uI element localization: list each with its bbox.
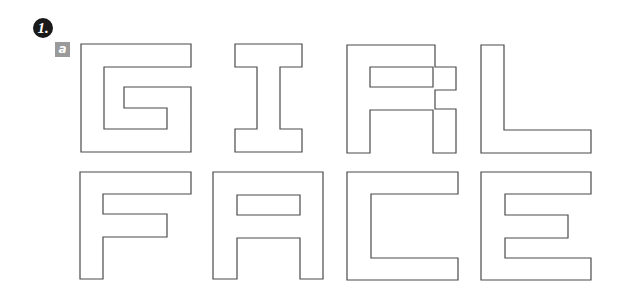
word-girl: GIRL xyxy=(81,44,591,153)
letter-r-outline xyxy=(347,45,456,153)
letter-f-outline xyxy=(80,172,191,279)
letter-a-outline xyxy=(213,172,323,279)
letter-l-outline xyxy=(481,45,591,153)
outline-letters: GIRL FACE xyxy=(0,0,622,297)
letter-g-outline xyxy=(81,44,191,152)
letter-c-outline xyxy=(347,172,458,280)
letter-e-outline xyxy=(481,172,591,280)
word-face: FACE xyxy=(80,172,591,280)
letter-i-outline xyxy=(235,44,302,152)
